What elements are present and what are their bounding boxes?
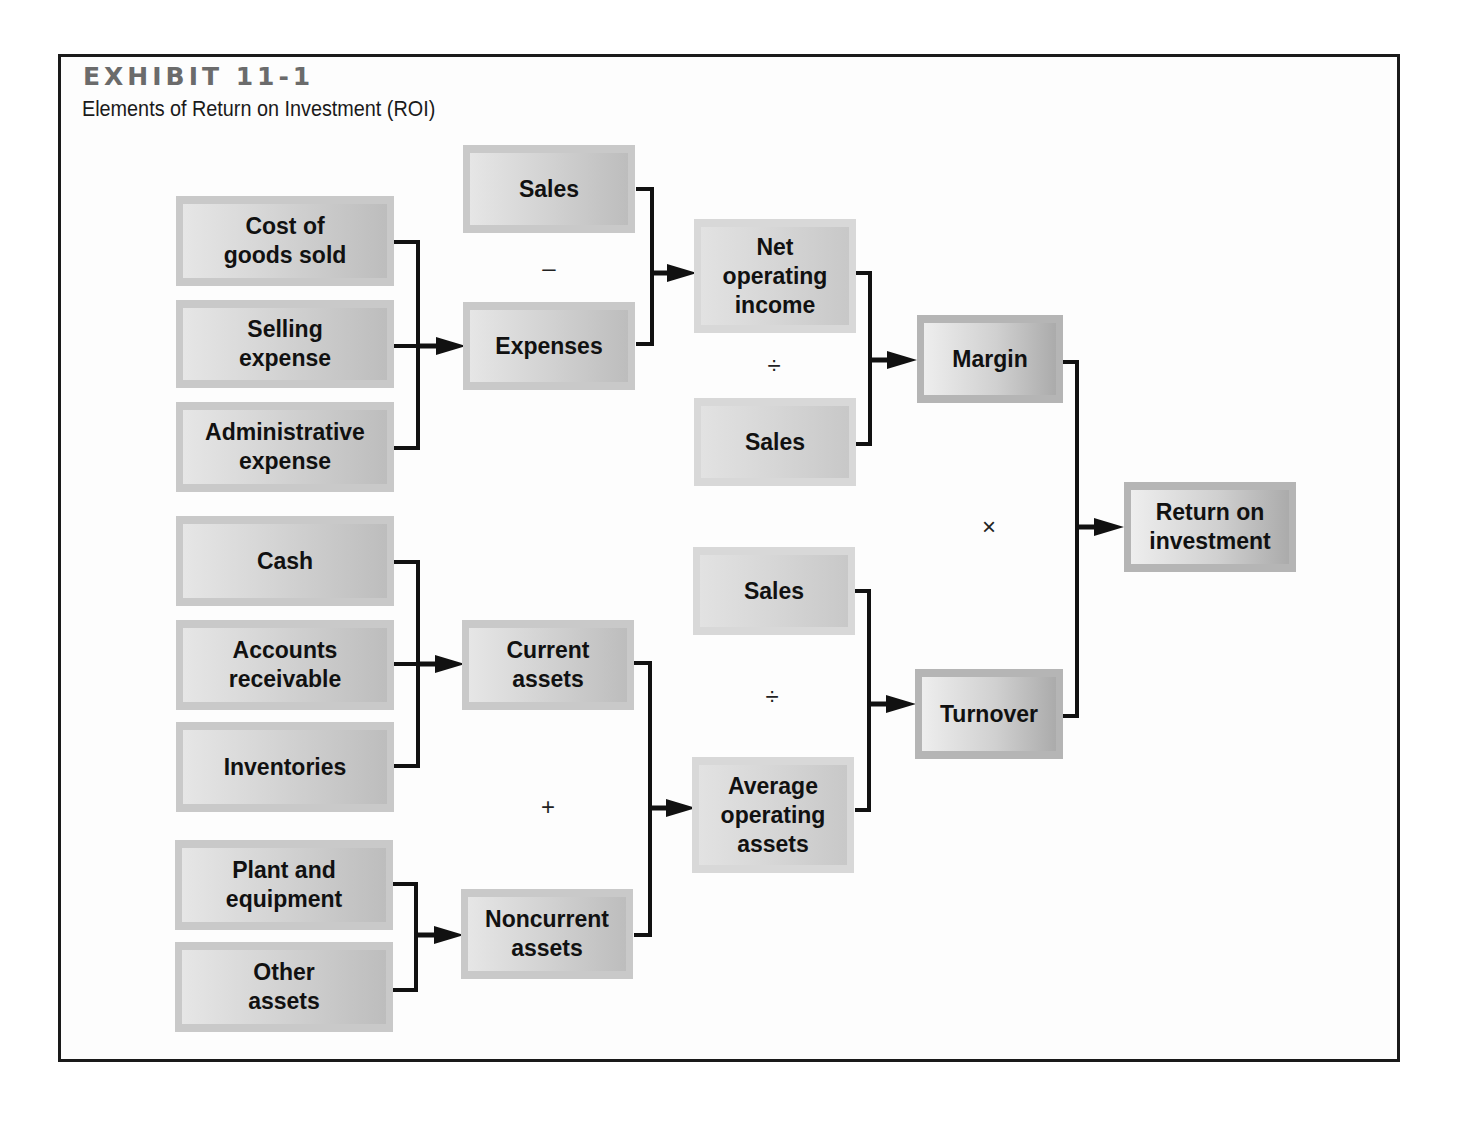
node-label: Average operating assets [699,765,847,865]
node-turnover: Turnover [915,669,1063,759]
arrow-head-icon [886,695,916,713]
node-margin: Margin [917,315,1063,403]
connector-turnover-bracket [855,589,916,812]
node-accounts-receivable: Accounts receivable [176,620,394,710]
node-average-operating-assets: Average operating assets [692,757,854,873]
node-administrative-expense: Administrative expense [176,402,394,492]
node-selling-expense: Selling expense [176,300,394,388]
node-current-assets: Current assets [462,620,634,710]
node-label: Return on investment [1131,490,1289,564]
node-label: Noncurrent assets [468,897,626,971]
operator-divide-margin: ÷ [767,352,780,380]
node-label: Other assets [182,950,386,1024]
connector-roi-bracket [1062,360,1124,718]
node-label: Current assets [469,628,627,702]
operator-multiply: × [982,513,996,541]
node-label: Cash [183,524,387,598]
node-sales-1: Sales [463,145,635,233]
node-label: Cost of goods sold [183,204,387,278]
node-sales-3: Sales [693,547,855,635]
node-expenses: Expenses [463,302,635,390]
arrow-head-icon [887,351,917,369]
node-label: Sales [701,406,849,478]
arrow-head-icon [436,337,466,355]
operator-divide-turnover: ÷ [765,683,778,711]
connector-avg-assets-bracket [634,661,696,937]
node-label: Administrative expense [183,410,387,484]
operator-plus: + [541,793,555,821]
node-noncurrent-assets: Noncurrent assets [461,889,633,979]
node-other-assets: Other assets [175,942,393,1032]
node-inventories: Inventories [176,722,394,812]
node-label: Sales [470,153,628,225]
node-label: Net operating income [701,227,849,325]
node-label: Sales [700,555,848,627]
node-return-on-investment: Return on investment [1124,482,1296,572]
node-label: Inventories [183,730,387,804]
connector-noi-bracket [636,187,697,346]
arrow-head-icon [1094,518,1124,536]
node-label: Accounts receivable [183,628,387,702]
node-cost-of-goods-sold: Cost of goods sold [176,196,394,286]
node-cash: Cash [176,516,394,606]
arrow-head-icon [435,655,465,673]
arrow-head-icon [667,264,697,282]
node-label: Expenses [470,310,628,382]
operator-minus: – [542,254,555,282]
connector-expenses-bracket [394,240,466,450]
node-label: Turnover [922,677,1056,751]
connector-current-assets-bracket [394,560,465,768]
node-plant-and-equipment: Plant and equipment [175,840,393,930]
node-label: Selling expense [183,308,387,380]
node-label: Margin [924,323,1056,395]
node-net-operating-income: Net operating income [694,219,856,333]
connector-noncurrent-bracket [393,882,464,992]
connector-margin-bracket [856,271,917,446]
node-label: Plant and equipment [182,848,386,922]
arrow-head-icon [434,926,464,944]
node-sales-2: Sales [694,398,856,486]
